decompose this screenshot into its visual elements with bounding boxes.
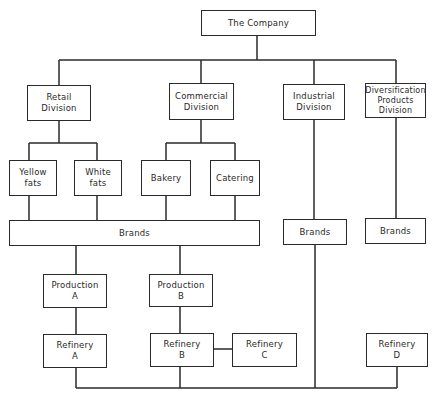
node-brands-main: Brands [9,220,260,246]
node-brands-diversification: Brands [365,218,426,244]
node-industrial-division: Industrial Division [283,84,345,120]
node-yellow-fats: Yellow fats [9,160,57,196]
node-production-a: Production A [43,274,107,308]
node-refinery-d: Refinery D [366,333,428,367]
node-diversification-division: Diversification Products Division [365,83,426,118]
node-production-b: Production B [149,274,213,307]
node-white-fats: White fats [74,160,122,196]
node-refinery-a: Refinery A [43,334,107,368]
node-brands-industrial: Brands [283,219,347,245]
node-catering: Catering [210,160,260,196]
node-commercial-division: Commercial Division [169,83,234,120]
node-bakery: Bakery [141,160,191,196]
node-company: The Company [201,10,316,36]
node-retail-division: Retail Division [27,85,91,121]
org-chart: The Company Retail Division Commercial D… [0,0,433,396]
node-refinery-b: Refinery B [150,333,214,367]
node-refinery-c: Refinery C [232,333,297,367]
